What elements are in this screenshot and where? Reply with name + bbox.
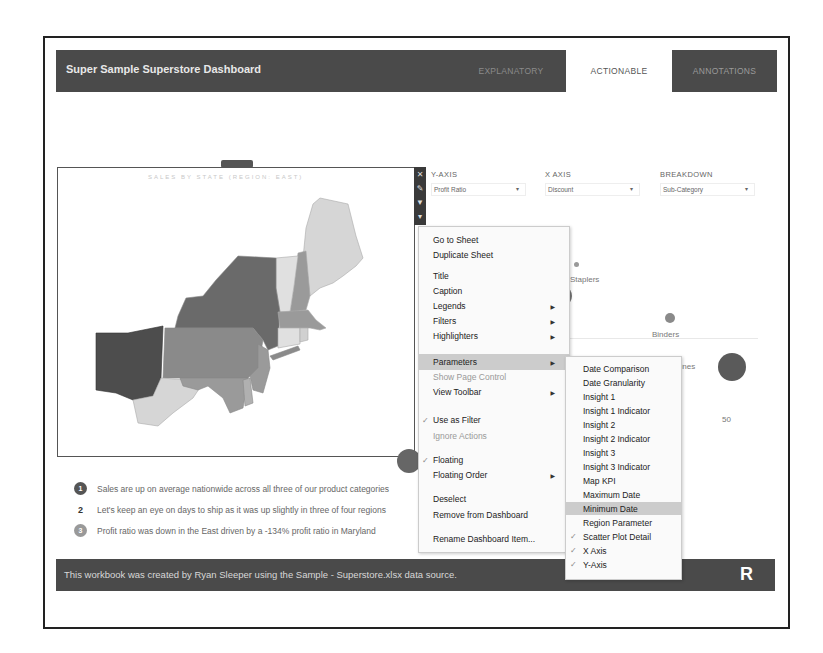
submenu-item-scatter-plot-detail[interactable]: ✓Scatter Plot Detail [566, 530, 681, 543]
menu-item-filters[interactable]: Filters▶ [419, 314, 569, 328]
insight-2: 2 Let's keep an eye on days to ship as i… [74, 503, 427, 516]
logo-icon: R [740, 564, 753, 585]
checkmark-icon: ✓ [570, 560, 577, 569]
menu-item-caption[interactable]: Caption [419, 284, 569, 298]
submenu-item-date-granularity[interactable]: Date Granularity [566, 376, 681, 389]
filter-icon[interactable]: ▼ [416, 197, 424, 208]
more-options-icon[interactable]: ▾ [418, 211, 422, 222]
state-connecticut[interactable] [278, 328, 300, 348]
submenu-item-insight-3-indicator[interactable]: Insight 3 Indicator [566, 460, 681, 473]
insight-1: 1 Sales are up on average nationwide acr… [74, 482, 427, 495]
submenu-arrow-icon: ▶ [550, 303, 555, 310]
label-staplers: Staplers [570, 275, 599, 284]
breakdown-parameter: BREAKDOWN Sub-Category ▾ [660, 170, 755, 196]
map-panel[interactable]: SALES BY STATE (REGION: EAST) [57, 167, 415, 457]
state-maine[interactable] [303, 198, 363, 296]
y-axis-label: Y-AXIS [431, 170, 526, 179]
submenu-item-insight-1[interactable]: Insight 1 [566, 390, 681, 403]
scatter-point-machines[interactable] [718, 353, 746, 381]
insight-number-icon: 1 [74, 482, 87, 495]
insight-number-icon: 3 [74, 524, 87, 537]
breakdown-dropdown[interactable]: Sub-Category ▾ [660, 183, 755, 196]
tab-explanatory[interactable]: EXPLANATORY [456, 50, 566, 92]
menu-item-floating-order[interactable]: Floating Order▶ [419, 468, 569, 482]
menu-item-highlighters[interactable]: Highlighters▶ [419, 329, 569, 343]
menu-item-go-to-sheet[interactable]: Go to Sheet [419, 233, 569, 247]
close-icon[interactable]: ✕ [417, 169, 424, 180]
state-massachusetts[interactable] [278, 310, 326, 330]
submenu-item-x-axis[interactable]: ✓X Axis [566, 544, 681, 557]
menu-item-show-page-control[interactable]: Show Page Control [419, 370, 569, 384]
state-new-york-li[interactable] [270, 346, 300, 360]
menu-item-view-toolbar[interactable]: View Toolbar▶ [419, 385, 569, 399]
menu-item-parameters[interactable]: Parameters▶ [419, 354, 569, 370]
footer-text: This workbook was created by Ryan Sleepe… [64, 569, 457, 580]
x-axis-parameter: X AXIS Discount ▾ [545, 170, 640, 196]
insight-3: 3 Profit ratio was down in the East driv… [74, 524, 427, 537]
submenu-item-insight-1-indicator[interactable]: Insight 1 Indicator [566, 404, 681, 417]
state-rhode-island[interactable] [300, 328, 308, 342]
submenu-item-y-axis[interactable]: ✓Y-Axis [566, 558, 681, 571]
menu-item-remove-from-dashboard[interactable]: Remove from Dashboard [419, 508, 569, 522]
context-menu: Go to Sheet Duplicate Sheet Title Captio… [418, 226, 570, 553]
menu-item-rename-dashboard-item[interactable]: Rename Dashboard Item... [419, 532, 569, 546]
submenu-arrow-icon: ▶ [550, 333, 555, 340]
submenu-item-maximum-date[interactable]: Maximum Date [566, 488, 681, 501]
edit-icon[interactable]: ✎ [417, 183, 424, 194]
menu-item-deselect[interactable]: Deselect [419, 492, 569, 506]
breakdown-label: BREAKDOWN [660, 170, 755, 179]
axis-tick-50: 50 [722, 415, 731, 424]
chevron-down-icon: ▾ [745, 185, 748, 192]
menu-item-title[interactable]: Title [419, 269, 569, 283]
checkmark-icon: ✓ [422, 456, 429, 465]
tab-actionable[interactable]: ACTIONABLE [566, 50, 672, 92]
submenu-item-minimum-date[interactable]: Minimum Date [566, 502, 681, 515]
submenu-arrow-icon: ▶ [550, 472, 555, 479]
menu-item-floating[interactable]: ✓Floating [419, 453, 569, 467]
checkmark-icon: ✓ [570, 532, 577, 541]
parameters-submenu: Date Comparison Date Granularity Insight… [565, 356, 682, 580]
menu-item-use-as-filter[interactable]: ✓Use as Filter [419, 413, 569, 427]
tab-annotations[interactable]: ANNOTATIONS [672, 50, 777, 92]
gridline [568, 338, 758, 339]
menu-item-duplicate-sheet[interactable]: Duplicate Sheet [419, 248, 569, 262]
y-axis-value: Profit Ratio [434, 186, 466, 193]
submenu-arrow-icon: ▶ [550, 359, 555, 366]
insight-text: Sales are up on average nationwide acros… [97, 484, 427, 494]
insight-number-icon: 2 [74, 503, 87, 516]
submenu-item-map-kpi[interactable]: Map KPI [566, 474, 681, 487]
chevron-down-icon: ▾ [516, 185, 519, 192]
x-axis-value: Discount [548, 186, 573, 193]
insight-text: Profit ratio was down in the East driven… [97, 526, 427, 536]
submenu-arrow-icon: ▶ [550, 318, 555, 325]
submenu-item-insight-2[interactable]: Insight 2 [566, 418, 681, 431]
item-toolbar: ✕ ✎ ▼ ▾ [414, 167, 426, 225]
y-axis-dropdown[interactable]: Profit Ratio ▾ [431, 183, 526, 196]
state-pennsylvania[interactable] [163, 328, 263, 378]
breakdown-value: Sub-Category [663, 186, 703, 193]
x-axis-label: X AXIS [545, 170, 640, 179]
submenu-item-insight-2-indicator[interactable]: Insight 2 Indicator [566, 432, 681, 445]
northeast-states-map[interactable] [58, 168, 416, 458]
y-axis-parameter: Y-AXIS Profit Ratio ▾ [431, 170, 526, 196]
submenu-item-insight-3[interactable]: Insight 3 [566, 446, 681, 459]
menu-item-ignore-actions[interactable]: Ignore Actions [419, 429, 569, 443]
scatter-point-staplers[interactable] [574, 262, 579, 267]
checkmark-icon: ✓ [570, 546, 577, 555]
checkmark-icon: ✓ [422, 416, 429, 425]
x-axis-dropdown[interactable]: Discount ▾ [545, 183, 640, 196]
scatter-point-binders[interactable] [665, 313, 675, 323]
submenu-item-date-comparison[interactable]: Date Comparison [566, 362, 681, 375]
chevron-down-icon: ▾ [630, 185, 633, 192]
insight-text: Let's keep an eye on days to ship as it … [97, 505, 427, 515]
submenu-arrow-icon: ▶ [550, 389, 555, 396]
menu-item-legends[interactable]: Legends▶ [419, 299, 569, 313]
submenu-item-region-parameter[interactable]: Region Parameter [566, 516, 681, 529]
dashboard-title: Super Sample Superstore Dashboard [66, 63, 261, 75]
state-ohio[interactable] [96, 326, 163, 400]
